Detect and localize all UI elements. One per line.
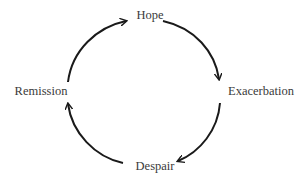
node-despair: Despair [136, 160, 175, 173]
arrow-exacerbation-to-despair [178, 103, 220, 161]
node-remission: Remission [15, 85, 68, 98]
arrow-hope-to-exacerbation [163, 21, 219, 79]
node-hope: Hope [136, 9, 163, 22]
arrow-remission-to-hope [68, 21, 126, 82]
arrow-despair-to-remission [68, 104, 123, 163]
node-exacerbation: Exacerbation [228, 85, 294, 98]
